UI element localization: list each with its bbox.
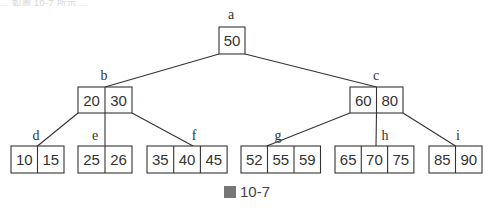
edge-c-h	[376, 113, 377, 146]
node-label: d	[33, 128, 40, 143]
node-b: 2030b	[78, 68, 132, 113]
edge-a-b	[105, 54, 219, 87]
figure-glyph-icon	[224, 186, 236, 198]
edge-c-i	[403, 113, 456, 146]
node-key: 45	[205, 151, 222, 168]
node-f: 354045f	[147, 128, 227, 173]
node-key: 65	[340, 151, 357, 168]
node-key: 52	[246, 151, 263, 168]
node-key: 30	[110, 92, 127, 109]
node-key: 10	[16, 151, 33, 168]
node-key: 20	[83, 92, 100, 109]
node-key: 26	[110, 151, 127, 168]
caption-text: 10-7	[240, 183, 270, 200]
node-g: 525559g	[241, 128, 321, 173]
node-key: 80	[381, 92, 398, 109]
node-key: 35	[152, 151, 169, 168]
node-key: 70	[366, 151, 383, 168]
node-label: f	[192, 128, 197, 143]
node-key: 25	[83, 151, 100, 168]
node-label: e	[92, 128, 98, 143]
node-c: 6080c	[350, 68, 403, 113]
node-h: 657075h	[335, 128, 414, 173]
node-label: c	[373, 68, 379, 83]
node-a: 50a	[219, 7, 245, 54]
node-key: 59	[299, 151, 316, 168]
node-key: 85	[434, 151, 451, 168]
node-label: i	[456, 128, 460, 143]
node-label: h	[382, 128, 389, 143]
node-key: 55	[272, 151, 289, 168]
edge-a-c	[245, 54, 377, 87]
node-key: 50	[224, 32, 241, 49]
node-key: 90	[460, 151, 477, 168]
node-label: a	[228, 7, 235, 22]
node-key: 75	[392, 151, 409, 168]
node-key: 40	[179, 151, 196, 168]
node-label: b	[101, 68, 108, 83]
node-key: 15	[42, 151, 59, 168]
edge-b-f	[132, 113, 193, 146]
node-key: 60	[355, 92, 372, 109]
b-tree-diagram: 50a2030b6080c1015d2526e354045f525559g657…	[0, 0, 494, 211]
figure-caption: 10-7	[0, 183, 494, 200]
node-label: g	[275, 128, 282, 143]
node-d: 1015d	[11, 128, 64, 173]
edge-b-d	[38, 113, 79, 146]
tree-nodes: 50a2030b6080c1015d2526e354045f525559g657…	[11, 7, 482, 173]
